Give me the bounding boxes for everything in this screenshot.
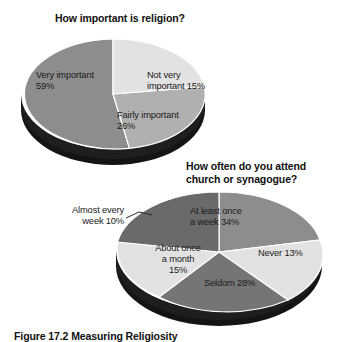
pie-label-seldom: Seldom 28% [204, 278, 255, 289]
pie-label-almost-every-week: Almost every week 10% [52, 205, 124, 227]
pie-label-never: Never 13% [258, 248, 303, 259]
figure-caption: Figure 17.2 Measuring Religiosity [14, 330, 178, 342]
pie-label-about-once-a-month: About once a month 15% [140, 243, 216, 277]
pie-label-at-least-once-a-week: At least once a week 34% [190, 206, 242, 228]
